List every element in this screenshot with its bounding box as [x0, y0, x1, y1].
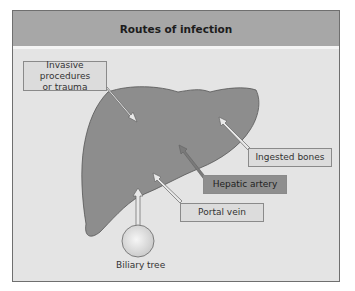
biliary-tree-ball — [122, 225, 154, 257]
label-ingested-bones: Ingested bones — [248, 148, 332, 167]
label-hepatic-text: Hepatic artery — [213, 179, 278, 190]
label-invasive-line1: Invasive procedures — [24, 60, 106, 82]
label-portal-text: Portal vein — [198, 207, 246, 218]
label-hepatic-artery: Hepatic artery — [203, 175, 287, 194]
label-portal-vein: Portal vein — [180, 203, 264, 222]
liver-illustration — [0, 0, 355, 291]
label-invasive-line2: or trauma — [43, 82, 88, 93]
label-biliary-tree: Biliary tree — [116, 260, 165, 270]
label-invasive-procedures: Invasive procedures or trauma — [23, 61, 107, 91]
label-ingested-text: Ingested bones — [255, 152, 324, 163]
arrow-biliary — [133, 188, 143, 228]
